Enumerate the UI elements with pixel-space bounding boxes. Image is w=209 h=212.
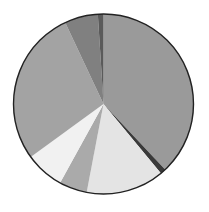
pie-chart xyxy=(0,0,209,212)
